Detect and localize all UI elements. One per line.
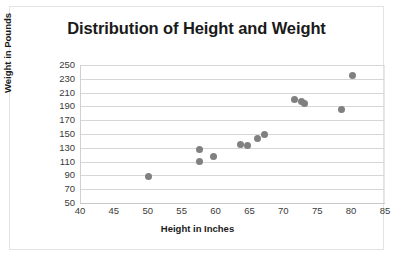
y-tick-label: 150 [39,129,75,139]
x-tick-label: 60 [210,206,221,216]
data-point [349,72,356,79]
y-axis-title: Weight in Pounds [2,13,13,93]
x-tick-label: 85 [380,206,391,216]
x-tick-label: 70 [278,206,289,216]
x-tick-label: 45 [109,206,120,216]
chart-title: Distribution of Height and Weight [10,19,383,38]
chart-container: Distribution of Height and Weight Weight… [9,6,384,250]
data-point [145,173,152,180]
y-tick-label: 110 [39,157,75,167]
plot-area: 507090110130150170190210230250 [80,65,385,203]
y-tick-label: 250 [39,60,75,70]
y-tick-label: 170 [39,115,75,125]
y-tick-label: 130 [39,143,75,153]
x-tick-label: 65 [244,206,255,216]
y-tick-label: 190 [39,101,75,111]
x-axis-title: Height in Inches [10,223,385,234]
x-tick-label: 80 [346,206,357,216]
data-point [291,96,298,103]
data-point [210,153,217,160]
data-point [237,141,244,148]
y-tick-label: 210 [39,88,75,98]
y-tick-label: 70 [39,184,75,194]
y-axis-tick-labels: 507090110130150170190210230250 [81,65,384,203]
x-axis-tick-labels: 40455055606570758085 [80,206,385,220]
data-point [244,142,251,149]
x-tick-label: 75 [312,206,323,216]
x-tick-label: 50 [142,206,153,216]
x-tick-label: 55 [176,206,187,216]
y-tick-label: 50 [39,198,75,208]
y-tick-label: 230 [39,74,75,84]
y-tick-label: 90 [39,170,75,180]
x-tick-label: 40 [75,206,86,216]
data-point [261,131,268,138]
x-axis-line [80,203,385,204]
